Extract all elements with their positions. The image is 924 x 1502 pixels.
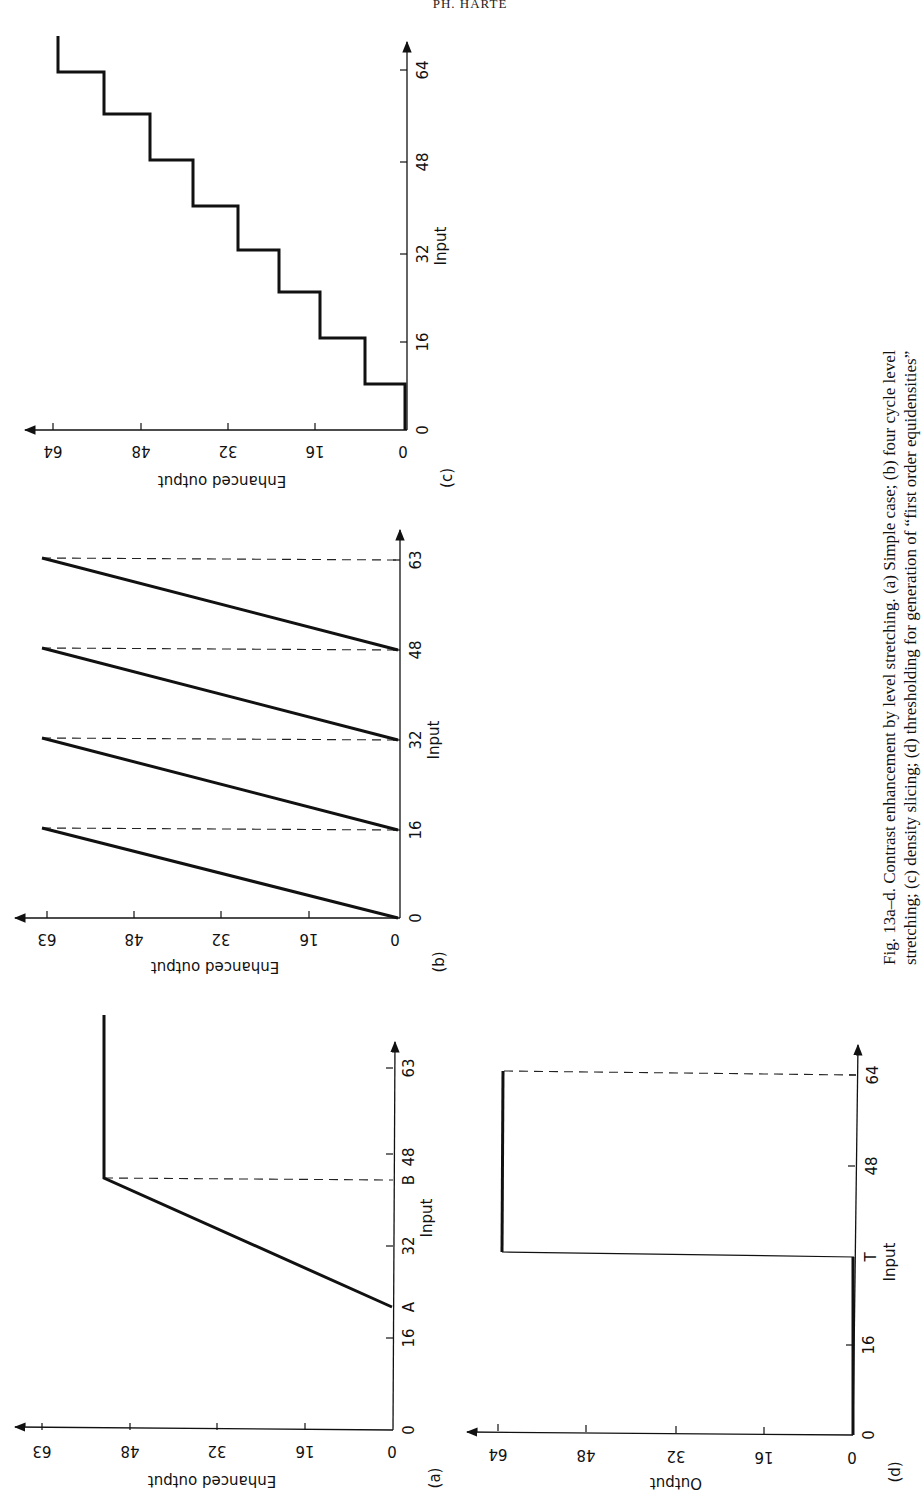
x-axis-label: Input <box>432 226 450 265</box>
running-head: PH. HARTE <box>433 0 508 11</box>
y-tick-label: 64 <box>488 1445 507 1463</box>
y-tick-label: 64 <box>43 442 62 460</box>
panel-label: (c) <box>438 468 456 488</box>
staircase-curve <box>58 36 405 430</box>
x-tick-label: 0 <box>860 1430 878 1440</box>
x-tick-label: 64 <box>864 1065 882 1084</box>
y-tick-label: 63 <box>32 1442 51 1460</box>
x-tick-label: 64 <box>414 60 432 79</box>
x-axis-label: Input <box>881 1242 899 1281</box>
y-tick-label: 48 <box>120 1442 139 1460</box>
y-tick-label: 48 <box>576 1446 595 1464</box>
y-tick-label: 32 <box>207 1442 226 1460</box>
x-tick-label: 0 <box>414 425 432 435</box>
x-tick-label: 16 <box>414 332 432 351</box>
y-tick-label: 16 <box>299 930 318 948</box>
y-tick-label: 63 <box>37 930 56 948</box>
x-tick-label: 0 <box>407 913 425 923</box>
y-tick-label: 16 <box>754 1448 773 1466</box>
x-tick-label: 0 <box>400 1425 418 1435</box>
x-tick-label: A <box>400 1301 418 1312</box>
threshold-label: T <box>862 1252 880 1263</box>
y-axis-label: Output <box>650 1474 702 1492</box>
y-tick-label: 16 <box>305 442 324 460</box>
x-tick-label: 63 <box>400 1058 418 1077</box>
threshold-high-segment <box>502 1071 503 1252</box>
figure-caption: Fig. 13a–d. Contrast enhancement by leve… <box>880 350 920 965</box>
x-tick-label: 63 <box>407 550 425 569</box>
x-axis-label: Input <box>418 1198 436 1237</box>
y-tick-label: 48 <box>124 930 143 948</box>
y-tick-label: 32 <box>666 1447 685 1465</box>
sawtooth-curve-3 <box>42 648 398 740</box>
y-axis-label: Enhanced output <box>158 472 287 490</box>
caption-line-2: stretching; (c) density slicing; (d) thr… <box>901 351 920 965</box>
x-tick-label: 16 <box>407 820 425 839</box>
y-tick-label: 0 <box>387 1442 397 1460</box>
panel-b: 0 16 32 48 63 Input 0 16 32 48 63 Enhanc… <box>15 530 448 976</box>
y-axis <box>15 1427 393 1430</box>
sawtooth-curve-2 <box>42 738 398 830</box>
y-tick-label: 0 <box>398 442 408 460</box>
x-tick-label: 48 <box>414 152 432 171</box>
y-tick-label: 48 <box>131 442 150 460</box>
y-axis <box>467 1432 853 1435</box>
panel-c: 0 16 32 48 64 Input 0 16 32 48 64 Enhanc… <box>25 36 456 490</box>
panel-a: 0 16 A 32 B 48 63 Input 0 16 32 48 63 En… <box>15 1015 444 1490</box>
x-axis-label: Input <box>425 720 443 759</box>
x-tick-label: 16 <box>400 1328 418 1347</box>
x-tick-label: 32 <box>400 1236 418 1255</box>
y-tick-label: 32 <box>211 930 230 948</box>
y-axis-label: Enhanced output <box>151 958 280 976</box>
x-tick-label: 48 <box>407 640 425 659</box>
panel-label: (d) <box>886 1461 904 1482</box>
y-tick-label: 32 <box>218 442 237 460</box>
y-tick-label: 16 <box>295 1442 314 1460</box>
x-tick-label: 48 <box>863 1156 881 1175</box>
x-tick-label: 32 <box>414 244 432 263</box>
x-tick-label: 32 <box>407 730 425 749</box>
panel-d: 0 16 T 48 64 Input 0 16 32 48 64 Output … <box>467 1045 904 1492</box>
panel-label: (b) <box>430 951 448 972</box>
y-tick-label: 0 <box>847 1448 857 1466</box>
y-axis-label: Enhanced output <box>148 1472 277 1490</box>
caption-line-1: Fig. 13a–d. Contrast enhancement by leve… <box>880 350 899 965</box>
x-tick-label: 16 <box>860 1335 878 1354</box>
stretch-curve <box>104 1015 392 1307</box>
sawtooth-curve-1 <box>42 828 398 918</box>
x-tick-label: B <box>400 1175 418 1185</box>
panel-label: (a) <box>426 1468 444 1489</box>
sawtooth-curve-4 <box>42 558 398 650</box>
y-tick-label: 0 <box>390 930 400 948</box>
x-axis <box>393 1042 395 1430</box>
x-tick-label: 48 <box>400 1147 418 1166</box>
figure-page: PH. HARTE 0 16 32 48 64 Input 0 16 32 48… <box>0 0 924 1502</box>
